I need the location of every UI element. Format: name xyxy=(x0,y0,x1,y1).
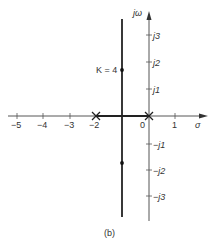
tick-label-1: 1 xyxy=(172,120,177,130)
tick-label-j1: j1 xyxy=(152,85,160,95)
tick-label-neg3: −3 xyxy=(64,120,74,130)
imag-axis: jω j3 j2 j1 −j1 −j2 −j3 xyxy=(132,8,165,221)
tick-label-zero: 0 xyxy=(140,120,145,130)
jomega-axis-label: jω xyxy=(132,8,142,18)
k4-upper-point xyxy=(120,68,124,72)
sigma-axis-label: σ xyxy=(195,120,201,130)
tick-label-j2: j2 xyxy=(152,58,160,68)
tick-label-neg-j3: −j3 xyxy=(153,192,165,202)
tick-label-j3: j3 xyxy=(152,31,160,41)
tick-label-neg4: −4 xyxy=(37,120,47,130)
tick-label-neg5: −5 xyxy=(11,120,21,130)
root-locus: K = 4 xyxy=(96,19,149,217)
tick-label-neg-j1: −j1 xyxy=(153,140,165,150)
figure-caption: (b) xyxy=(104,228,115,238)
tick-label-neg-j2: −j2 xyxy=(153,166,165,176)
root-locus-diagram: −5 −4 −3 −2 0 1 σ jω j3 j2 j1 −j1 −j2 −j… xyxy=(0,0,212,249)
real-axis-arrow-icon xyxy=(199,114,208,119)
imag-axis-arrow-icon xyxy=(147,11,152,20)
tick-label-neg2: −2 xyxy=(89,120,99,130)
k4-lower-point xyxy=(120,161,124,165)
k-equals-4-label: K = 4 xyxy=(96,65,117,75)
